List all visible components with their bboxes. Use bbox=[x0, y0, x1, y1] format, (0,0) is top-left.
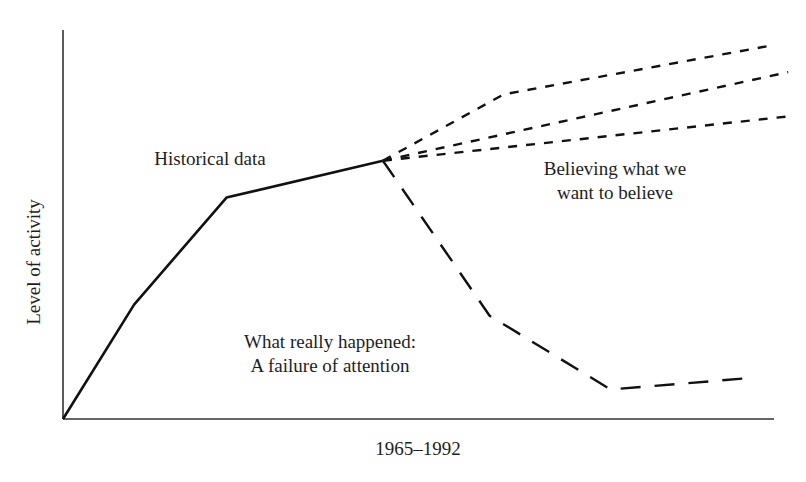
axes bbox=[63, 30, 774, 419]
series-line-2 bbox=[383, 72, 788, 161]
annotation-layer: Historical dataBelieving what wewant to … bbox=[154, 148, 686, 376]
series-line-0 bbox=[63, 161, 383, 419]
series-line-1 bbox=[383, 46, 767, 160]
y-axis-label: Level of activity bbox=[23, 199, 44, 325]
annotation-believing-line-0: Believing what we bbox=[544, 158, 686, 179]
annotation-really-line-0: What really happened: bbox=[244, 331, 416, 352]
annotation-historical-line-0: Historical data bbox=[154, 148, 266, 169]
chart-canvas: Historical dataBelieving what wewant to … bbox=[0, 0, 806, 482]
chart: Historical dataBelieving what wewant to … bbox=[0, 0, 806, 482]
annotation-really-line-1: A failure of attention bbox=[251, 355, 410, 376]
x-axis-label: 1965–1992 bbox=[375, 438, 461, 459]
series-line-3 bbox=[383, 116, 788, 160]
series-layer bbox=[63, 46, 788, 419]
annotation-believing-line-1: want to believe bbox=[557, 182, 673, 203]
